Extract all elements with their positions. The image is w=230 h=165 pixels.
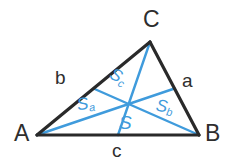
area-label-Sa: Sa	[76, 94, 96, 113]
area-label-Sb: Sb	[155, 97, 175, 117]
area-label-S-base: S	[119, 112, 132, 133]
vertex-label-A: A	[14, 122, 29, 145]
vertex-label-C: C	[143, 8, 160, 31]
side-label-a: a	[182, 71, 193, 90]
geometry-figure-canvas: A B C a b c Sa Sb Sc S	[0, 0, 230, 165]
side-label-c: c	[112, 141, 122, 160]
side-label-b: b	[55, 68, 66, 87]
vertex-label-B: B	[205, 122, 220, 145]
area-label-S: S	[119, 113, 132, 132]
